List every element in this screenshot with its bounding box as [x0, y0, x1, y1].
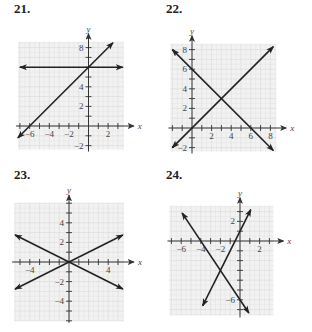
- x-tick-label: 2: [209, 131, 214, 141]
- graph-21: −6−4−22842−2xy: [16, 24, 142, 152]
- y-tick-label: −2: [74, 141, 84, 151]
- x-tick-label: 6: [249, 131, 254, 141]
- arrowhead: [182, 213, 183, 215]
- arrowhead: [203, 304, 204, 306]
- x-tick-label: −6: [176, 244, 186, 254]
- arrowhead: [15, 288, 17, 289]
- y-tick-label: 6: [183, 64, 188, 74]
- x-tick-label: 2: [106, 129, 111, 139]
- graph-23: −4442−2−4xy: [12, 185, 142, 323]
- graph-22: 24688642−2xy: [168, 26, 294, 154]
- y-tick-label: 4: [183, 84, 188, 94]
- graph-24: −6−4−222−6xy: [167, 188, 291, 318]
- x-axis-label: x: [137, 257, 142, 267]
- x-tick-label: −4: [25, 265, 35, 275]
- y-axis-label: y: [237, 188, 242, 198]
- y-tick-label: 4: [60, 218, 65, 228]
- graphs-canvas: −6−4−22842−2xy24688642−2xy−4442−2−4xy−6−…: [0, 0, 312, 332]
- y-axis-label: y: [189, 26, 194, 36]
- x-axis-label: x: [289, 123, 294, 133]
- y-tick-label: −6: [225, 295, 235, 305]
- x-tick-label: −2: [216, 244, 226, 254]
- y-tick-label: −4: [54, 296, 64, 306]
- y-tick-label: −2: [177, 143, 187, 153]
- y-axis-label: y: [86, 24, 91, 34]
- x-tick-label: −6: [25, 129, 35, 139]
- x-tick-label: 8: [268, 131, 273, 141]
- y-tick-label: 2: [79, 101, 84, 111]
- x-tick-label: −2: [64, 129, 74, 139]
- y-tick-label: 2: [183, 103, 188, 113]
- y-tick-label: 4: [79, 82, 84, 92]
- x-axis-label: x: [286, 236, 291, 246]
- y-tick-label: 2: [60, 237, 65, 247]
- arrowhead: [15, 235, 17, 236]
- y-tick-label: −2: [54, 277, 64, 287]
- y-tick-label: 8: [183, 45, 188, 55]
- x-tick-label: 2: [257, 244, 262, 254]
- y-axis-label: y: [66, 185, 71, 195]
- y-tick-label: 2: [231, 216, 236, 226]
- x-tick-label: −4: [45, 129, 55, 139]
- x-tick-label: 4: [106, 265, 111, 275]
- x-axis-label: x: [137, 121, 142, 131]
- y-tick-label: 8: [79, 43, 84, 53]
- x-tick-label: 4: [229, 131, 234, 141]
